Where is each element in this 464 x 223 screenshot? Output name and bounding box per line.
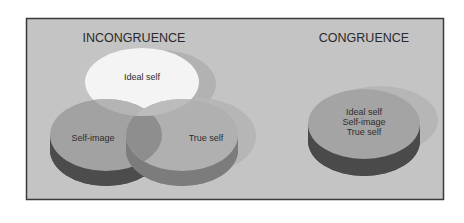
self-image-label: Self-image [71,133,114,143]
self-congruence-diagram: INCONGRUENCE Ideal self Sel [0,0,464,223]
congruence-label-self-image: Self-image [342,117,385,127]
congruence-label-ideal-self: Ideal self [346,107,383,117]
ideal-self-label: Ideal self [124,72,161,82]
true-self-label: True self [189,133,224,143]
congruence-title: CONGRUENCE [319,31,409,45]
congruence-label-true-self: True self [347,127,382,137]
incongruence-title: INCONGRUENCE [83,31,186,45]
